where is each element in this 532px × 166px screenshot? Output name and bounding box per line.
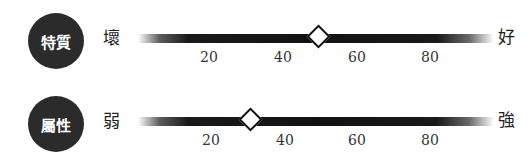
badge-trait: 特質	[28, 13, 84, 69]
left-label-bad: 壞	[103, 24, 120, 49]
tick-20: 20	[200, 49, 218, 65]
tick-20: 20	[202, 132, 220, 148]
badge-attribute: 屬性	[28, 96, 84, 152]
tick-40: 40	[274, 49, 292, 65]
tick-40: 40	[276, 132, 294, 148]
right-label-strong: 強	[498, 106, 515, 131]
slider-marker-attribute[interactable]	[238, 107, 262, 131]
tick-80: 80	[421, 132, 439, 148]
scale-row-trait: 特質 壞 好 20 40 60 80	[0, 0, 532, 83]
slider-marker-trait[interactable]	[306, 24, 330, 48]
slider-track-attribute[interactable]	[138, 117, 494, 126]
left-label-weak: 弱	[103, 107, 120, 132]
tick-80: 80	[421, 49, 439, 65]
tick-60: 60	[348, 49, 366, 65]
scale-row-attribute: 屬性 弱 強 20 40 60 80	[0, 83, 532, 166]
tick-60: 60	[348, 132, 366, 148]
right-label-good: 好	[498, 23, 515, 48]
